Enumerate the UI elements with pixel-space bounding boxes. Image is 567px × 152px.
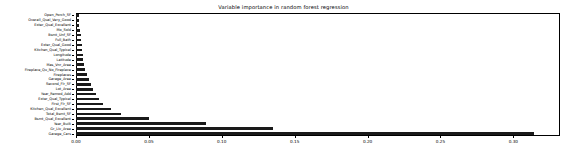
bar-row: [76, 93, 560, 96]
bar: [76, 117, 149, 120]
y-axis-tick-mark: [72, 104, 74, 105]
y-axis-tick-label: Longitude: [54, 53, 71, 57]
bar-row: [76, 19, 560, 22]
y-axis-tick-mark: [72, 55, 74, 56]
bar: [76, 103, 103, 106]
bar-row: [76, 103, 560, 106]
y-axis-tick-mark: [72, 124, 74, 125]
y-axis-tick-label: Garage_Area: [48, 77, 71, 81]
y-axis-tick-mark: [72, 114, 74, 115]
bar: [76, 24, 79, 27]
bar: [76, 68, 85, 71]
y-axis-tick-label: Garage_Cars: [49, 132, 71, 136]
y-axis-tick-mark: [72, 15, 74, 16]
y-axis-tick-label: Mas_Vnr_Area: [46, 63, 71, 67]
y-axis-tick-mark: [72, 94, 74, 95]
y-axis-tick-mark: [72, 65, 74, 66]
x-axis-tick-label: 0.15: [290, 139, 299, 145]
bar-row: [76, 63, 560, 66]
bar-row: [76, 73, 560, 76]
bar-row: [76, 113, 560, 116]
bar-row: [76, 108, 560, 111]
bar: [76, 78, 89, 81]
bar: [76, 29, 80, 32]
y-axis-tick-mark: [72, 119, 74, 120]
bar-row: [76, 49, 560, 52]
bar: [76, 93, 96, 96]
y-axis-tick-label: Exter_Qual_Good: [41, 43, 71, 47]
x-axis-tick-mark: [222, 136, 223, 138]
y-axis-tick-mark: [72, 40, 74, 41]
bar: [76, 98, 99, 101]
bar: [76, 83, 91, 86]
x-axis-tick-label: 0.30: [509, 139, 518, 145]
bar-row: [76, 117, 560, 120]
y-axis-tick-mark: [72, 60, 74, 61]
y-axis-tick-label: Kitchen_Qual_Excellent: [30, 107, 71, 111]
bar-row: [76, 83, 560, 86]
bar: [76, 127, 273, 130]
y-axis-tick-mark: [72, 89, 74, 90]
x-axis-tick-label: 0.20: [363, 139, 372, 145]
x-axis-tick-mark: [295, 136, 296, 138]
bar: [76, 19, 79, 22]
y-axis-tick-mark: [72, 99, 74, 100]
bar: [76, 108, 111, 111]
y-axis-tick-label: Bsmt_Unf_SF: [48, 33, 71, 37]
y-axis-tick-label: Open_Porch_SF: [44, 13, 71, 17]
y-axis-tick-mark: [72, 25, 74, 26]
y-axis-tick-mark: [72, 30, 74, 31]
y-axis-tick-mark: [72, 79, 74, 80]
bar-row: [76, 78, 560, 81]
y-axis-tick-mark: [72, 20, 74, 21]
bar: [76, 132, 534, 135]
y-axis-tick-label: Lot_Area: [56, 87, 71, 91]
bar-row: [76, 68, 560, 71]
bar-row: [76, 88, 560, 91]
x-axis-tick-mark: [440, 136, 441, 138]
y-axis-tick-label: Year_Built: [54, 122, 71, 126]
bar: [76, 49, 82, 52]
x-axis-tick-label: 0.00: [71, 139, 80, 145]
y-axis-tick-label: Exter_Qual_Typical: [38, 97, 71, 101]
bar-row: [76, 44, 560, 47]
bar-row: [76, 29, 560, 32]
bar-row: [76, 39, 560, 42]
y-axis-tick-mark: [72, 45, 74, 46]
bar: [76, 39, 81, 42]
y-axis-tick-label: Bsmt_Qual_Excellent: [34, 117, 71, 121]
y-axis-tick-mark: [72, 35, 74, 36]
bar-row: [76, 127, 560, 130]
bar-row: [76, 14, 560, 17]
y-axis-tick-mark: [72, 129, 74, 130]
y-axis-tick-label: Exter_Qual_Excellent: [34, 23, 71, 27]
bar-row: [76, 132, 560, 135]
y-axis-tick-mark: [72, 109, 74, 110]
bar-row: [76, 34, 560, 37]
bar: [76, 44, 82, 47]
x-axis-tick-mark: [76, 136, 77, 138]
bar: [76, 63, 84, 66]
bar: [76, 88, 93, 91]
y-axis-tick-mark: [72, 75, 74, 76]
y-axis-tick-label: Full_Bath: [55, 38, 71, 42]
y-axis-labels: Open_Porch_SFOverall_Qual_Very_GoodExter…: [0, 13, 74, 136]
x-axis-tick-label: 0.05: [144, 139, 153, 145]
x-axis-tick-mark: [513, 136, 514, 138]
y-axis-tick-label: Gr_Liv_Area: [50, 127, 71, 131]
y-axis-tick-mark: [72, 70, 74, 71]
bars-container: [76, 13, 560, 136]
y-axis-tick-label: Year_Remod_Add: [41, 92, 71, 96]
y-axis-tick-label: Overall_Qual_Very_Good: [28, 18, 71, 22]
x-axis-tick-mark: [149, 136, 150, 138]
bar: [76, 14, 79, 17]
y-axis-tick-label: Fireplaces: [54, 73, 72, 77]
y-axis-tick-label: Kitchen_Qual_Typical: [34, 48, 71, 52]
y-axis-tick-label: Mo_Sold: [57, 28, 71, 32]
bar: [76, 34, 81, 37]
x-axis-tick-label: 0.25: [436, 139, 445, 145]
bar-row: [76, 54, 560, 57]
y-axis-tick-mark: [72, 134, 74, 135]
x-axis-tick-mark: [368, 136, 369, 138]
bar: [76, 122, 206, 125]
